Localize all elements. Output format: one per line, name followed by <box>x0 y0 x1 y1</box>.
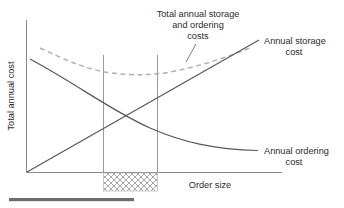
total-cost-label-line3: costs <box>187 31 209 41</box>
ordering-cost-label-line1: Annual ordering <box>264 146 329 156</box>
chart-canvas: Total annual cost Order size Total annua… <box>0 0 344 208</box>
total-cost-label-line1: Total annual storage <box>157 9 240 19</box>
y-axis-label: Total annual cost <box>6 61 16 130</box>
footer-rule <box>9 198 134 201</box>
total-cost-label-line2: and ordering <box>172 20 224 30</box>
optimal-band-hatch <box>104 173 158 191</box>
storage-cost-label-line2: cost <box>286 47 303 57</box>
chart-background <box>0 0 344 208</box>
ordering-cost-label-line2: cost <box>286 157 303 167</box>
eoq-cost-chart: Total annual cost Order size Total annua… <box>0 0 344 208</box>
x-axis-label: Order size <box>189 180 231 190</box>
storage-cost-label-line1: Annual storage <box>264 36 326 46</box>
